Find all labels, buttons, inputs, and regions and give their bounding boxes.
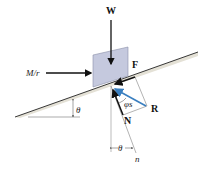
theta-bottom-label: θ — [118, 143, 123, 153]
normal-label: N — [124, 115, 132, 126]
resultant-label: R — [151, 103, 159, 114]
friction-label: F — [132, 59, 138, 70]
theta-left-label: θ — [76, 105, 81, 115]
weight-label: W — [106, 5, 116, 16]
friction-angle-label: φs — [124, 99, 133, 109]
friction-angle: φs — [119, 98, 133, 109]
free-body-diagram: θ W M/r n θ F N R — [0, 0, 209, 172]
applied-force: M/r — [25, 68, 91, 78]
incline-angle-bottom: θ — [112, 143, 133, 153]
normal-axis-label: n — [135, 154, 140, 164]
applied-force-label: M/r — [25, 68, 40, 78]
